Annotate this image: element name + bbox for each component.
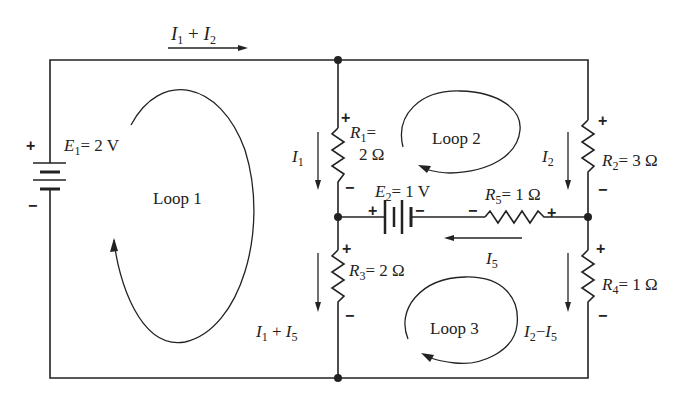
label-current-r3: I1 + I5 [256, 323, 297, 343]
label-i5: I5 [486, 250, 498, 270]
r3-minus: − [345, 308, 354, 324]
label-loop2: Loop 2 [432, 130, 481, 147]
label-i1: I1 [292, 148, 304, 168]
r5-minus: − [468, 203, 477, 219]
loop1-arrow [114, 90, 254, 343]
r1-plus: + [341, 110, 350, 126]
label-r5: R5= 1 Ω [485, 186, 541, 206]
label-current-top: I1 + I2 [171, 24, 216, 46]
r3-plus: + [342, 241, 351, 257]
r1-minus: − [345, 180, 354, 196]
e1-plus: + [26, 138, 35, 154]
r4-minus: − [598, 308, 607, 324]
label-r4: R4= 1 Ω [602, 276, 658, 296]
r5-plus: + [547, 205, 556, 221]
resistor-r2 [582, 120, 594, 217]
resistor-r1 [332, 128, 344, 217]
label-i2: I2 [542, 148, 554, 168]
label-e1: E1= 2 V [64, 137, 119, 157]
label-current-r4: I2−I5 [524, 323, 557, 343]
label-e2: E2= 1 V [375, 183, 430, 203]
node-mid-left [334, 213, 342, 221]
node-mid-right [584, 213, 592, 221]
label-r1: R1= [350, 124, 376, 144]
r2-plus: + [598, 113, 607, 129]
label-r3: R3= 2 Ω [349, 262, 405, 282]
label-loop3: Loop 3 [430, 320, 479, 337]
label-r2: R2= 3 Ω [602, 152, 658, 172]
label-r1-value: 2 Ω [359, 146, 384, 163]
e2-plus: + [368, 203, 377, 219]
label-loop1: Loop 1 [153, 190, 202, 207]
resistor-r5 [485, 211, 588, 223]
node-bottom [334, 374, 342, 382]
e1-minus: − [28, 198, 37, 214]
circuit-wiring [0, 0, 691, 402]
r2-minus: − [598, 182, 607, 198]
e2-minus: − [415, 203, 424, 219]
r4-plus: + [596, 241, 605, 257]
node-top [334, 56, 342, 64]
resistor-r3 [332, 250, 344, 378]
